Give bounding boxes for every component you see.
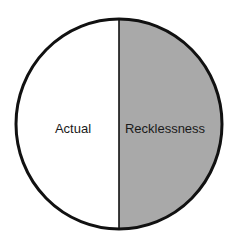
recklessness-label: Recklessness	[125, 121, 206, 136]
actual-label: Actual	[55, 121, 91, 136]
split-circle-diagram: Actual Recklessness	[0, 0, 233, 250]
